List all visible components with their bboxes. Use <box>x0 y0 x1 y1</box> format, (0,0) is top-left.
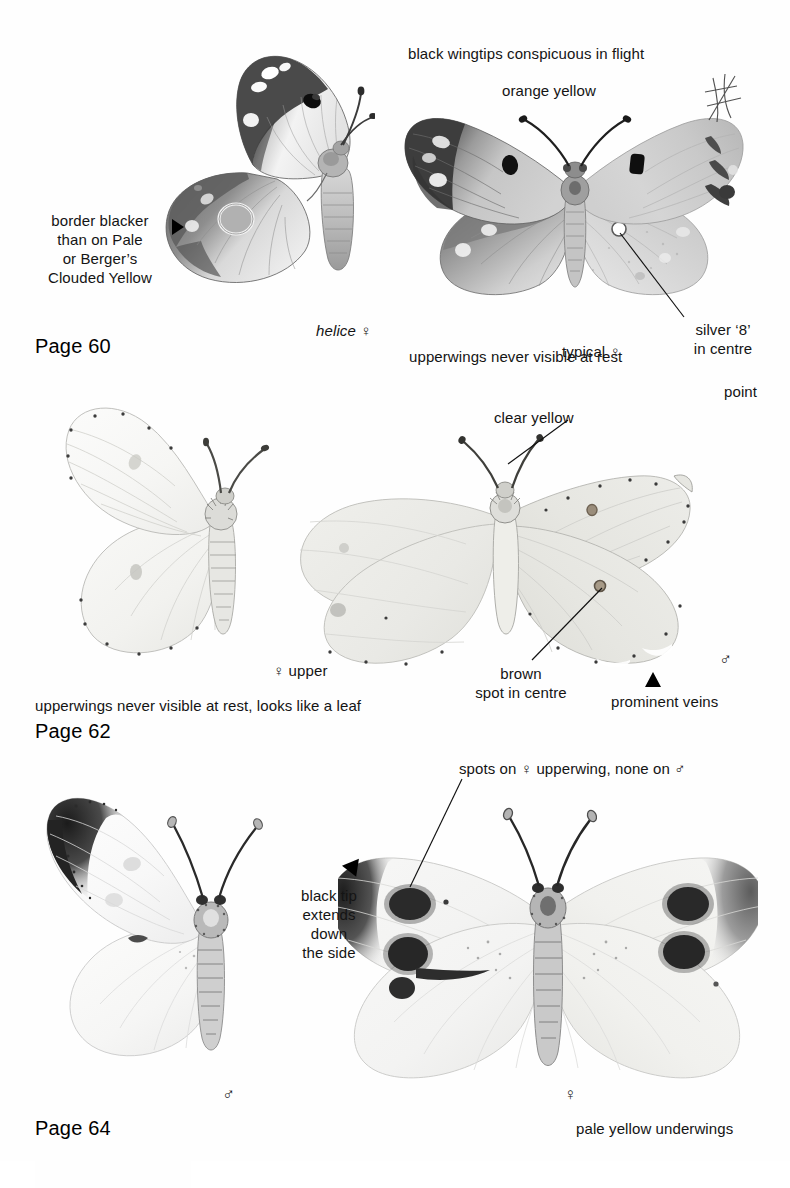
label-border-blacker: border blacker than on Pale or Berger’s … <box>30 211 170 287</box>
label-point: point <box>724 382 757 401</box>
label-black-tip-extends: black tip extends down the side <box>274 886 384 962</box>
butterfly-large-white-female <box>338 772 758 1082</box>
heading-large-white: Large White Page 64 <box>35 1116 191 1188</box>
female-symbol: ♀ <box>360 322 371 339</box>
species-page: Page 64 <box>35 1116 191 1188</box>
butterfly-clouded-yellow-helice <box>135 45 375 320</box>
label-orange-yellow: orange yellow <box>502 81 596 100</box>
label-helice-form-text: helice <box>316 322 356 339</box>
label-male-symbol-large-white: ♂ <box>222 1085 235 1104</box>
arrow-up-icon-prominent-veins <box>645 672 661 687</box>
label-spots-on-upperwing: spots on ♀ upperwing, none on ♂ <box>459 759 686 778</box>
label-black-wingtips: black wingtips conspicuous in flight <box>408 44 644 63</box>
arrow-right-icon-border-blacker <box>172 219 184 235</box>
label-upperwings-never-visible-brimstone: upperwings never visible at rest, looks … <box>35 696 361 715</box>
label-silver-eight: silver ‘8’ in centre <box>666 320 780 358</box>
butterfly-brimstone-female <box>35 392 300 682</box>
label-helice-form: helice ♀ <box>299 302 372 359</box>
label-prominent-veins: prominent veins <box>611 692 718 711</box>
butterfly-clouded-yellow-typical <box>393 72 753 324</box>
butterfly-brimstone-male <box>300 398 700 678</box>
label-brown-spot-in-centre: brown spot in centre <box>451 664 591 702</box>
label-female-symbol-large-white: ♀ <box>564 1085 577 1104</box>
label-upperwings-never-visible-cy: upperwings never visible at rest <box>409 347 622 366</box>
label-clear-yellow: clear yellow <box>494 408 574 427</box>
label-male-symbol-brimstone: ♂ <box>719 650 732 669</box>
label-female-upper: ♀ upper <box>273 661 327 680</box>
label-pale-yellow-underwings: pale yellow underwings <box>576 1119 733 1138</box>
